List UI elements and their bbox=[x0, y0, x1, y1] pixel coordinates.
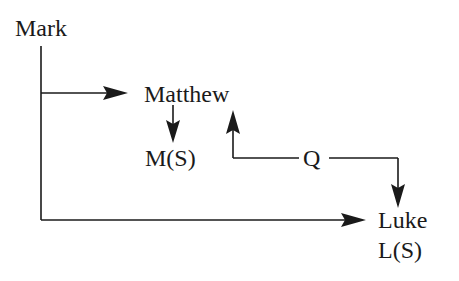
edge-mark-to-luke bbox=[41, 213, 366, 227]
edge-q-to-luke bbox=[329, 158, 405, 208]
node-mark: Mark bbox=[15, 15, 67, 41]
node-matthew: Matthew bbox=[144, 81, 230, 107]
node-luke-special: L(S) bbox=[378, 237, 422, 263]
node-matthew-special: M(S) bbox=[145, 145, 196, 171]
node-q: Q bbox=[303, 145, 320, 171]
edge-mark-to-matthew bbox=[41, 86, 128, 100]
node-luke: Luke bbox=[378, 207, 427, 233]
edge-matthew-to-ms bbox=[166, 105, 180, 143]
edge-q-to-matthew bbox=[226, 110, 299, 158]
diagram-canvas: Mark Matthew M(S) Q Luke L(S) bbox=[0, 0, 459, 281]
